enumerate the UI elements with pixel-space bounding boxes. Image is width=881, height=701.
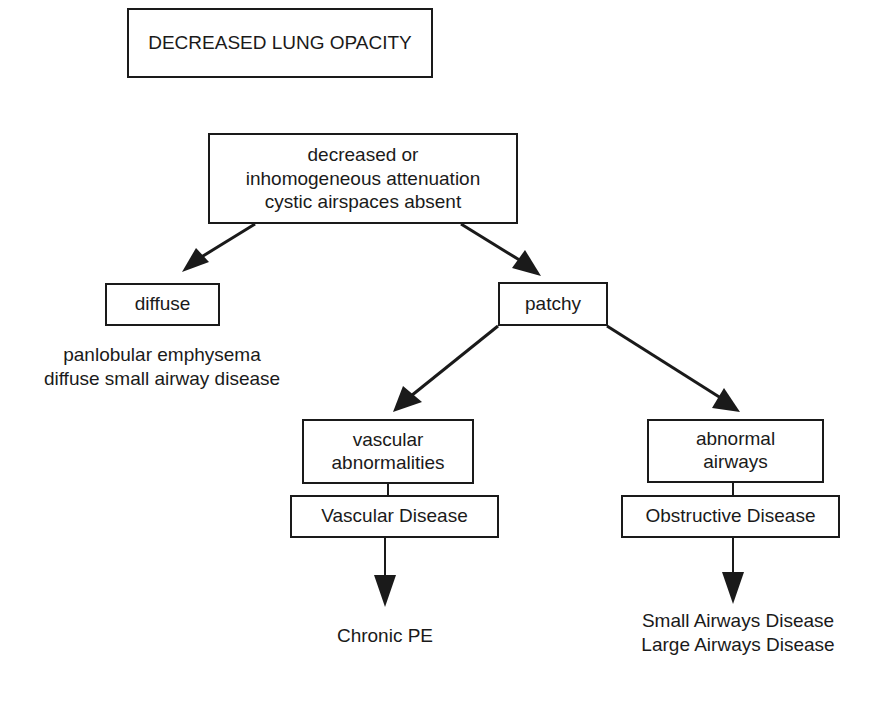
- root-line-2: inhomogeneous attenuation: [246, 167, 481, 191]
- title-box: DECREASED LUNG OPACITY: [127, 8, 433, 78]
- abnormal-airways-node: abnormal airways: [647, 419, 824, 483]
- airways-line-2: airways: [703, 451, 767, 474]
- obstructive-disease-node: Obstructive Disease: [621, 495, 840, 538]
- vascular-line-2: abnormalities: [332, 452, 445, 475]
- diffuse-label: diffuse: [135, 293, 191, 316]
- root-line-3: cystic airspaces absent: [265, 190, 461, 214]
- arrowhead-icon: [712, 388, 740, 412]
- obstructive-outcomes: Small Airways Disease Large Airways Dise…: [603, 609, 873, 657]
- obstructive-disease-label: Obstructive Disease: [645, 505, 815, 528]
- vascular-disease-label: Vascular Disease: [321, 505, 467, 528]
- arrowhead-icon: [512, 250, 541, 276]
- finding-1: panlobular emphysema: [12, 343, 312, 367]
- outcome-chronic-pe: Chronic PE: [305, 624, 465, 648]
- arrowhead-icon: [722, 572, 744, 604]
- arrow-patchy-to-vascular: [406, 326, 498, 400]
- arrowhead-icon: [374, 575, 396, 607]
- airways-line-1: abnormal: [696, 428, 775, 451]
- patchy-node: patchy: [498, 282, 608, 326]
- outcome-small-airways: Small Airways Disease: [603, 609, 873, 633]
- arrowhead-icon: [182, 248, 209, 272]
- outcome-large-airways: Large Airways Disease: [603, 633, 873, 657]
- arrow-patchy-to-airways: [607, 326, 724, 400]
- patchy-label: patchy: [525, 293, 581, 316]
- vascular-disease-node: Vascular Disease: [290, 495, 499, 538]
- diffuse-node: diffuse: [105, 283, 220, 326]
- vascular-abnormalities-node: vascular abnormalities: [302, 419, 474, 484]
- root-line-1: decreased or: [308, 143, 419, 167]
- vascular-line-1: vascular: [353, 429, 424, 452]
- root-node: decreased or inhomogeneous attenuation c…: [208, 133, 518, 224]
- diagram-title: DECREASED LUNG OPACITY: [148, 32, 412, 55]
- arrow-root-to-patchy: [461, 224, 526, 264]
- finding-2: diffuse small airway disease: [12, 367, 312, 391]
- diffuse-findings: panlobular emphysema diffuse small airwa…: [12, 343, 312, 391]
- vascular-outcome: Chronic PE: [305, 624, 465, 648]
